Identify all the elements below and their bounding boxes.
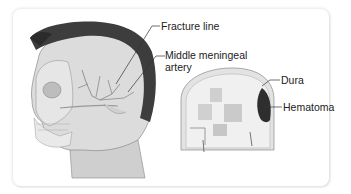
label-dura: Dura (281, 75, 304, 86)
label-hematoma: Hematoma (283, 102, 334, 113)
lateral-head-view (30, 22, 156, 178)
label-middle-meningeal-artery-line2: artery (165, 62, 192, 73)
label-middle-meningeal-artery-line1: Middle meningeal (165, 50, 247, 61)
coronal-section-view (181, 68, 274, 152)
label-fracture-line: Fracture line (161, 21, 219, 32)
